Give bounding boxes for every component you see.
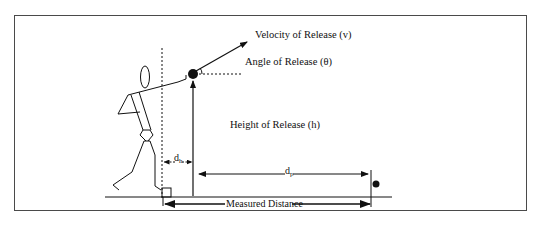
- dh-label: dh: [174, 153, 183, 165]
- angle-arc-icon: [200, 68, 202, 74]
- athlete-stick-figure-icon: [113, 66, 186, 190]
- landing-ball-icon: [373, 181, 380, 188]
- measured-distance-label: Measured Distance: [226, 199, 303, 209]
- dp-label: dp: [285, 166, 294, 178]
- stop-board-icon: [162, 188, 171, 197]
- dh-label-sub: h: [179, 157, 183, 165]
- dp-label-sub: p: [290, 170, 294, 178]
- angle-label: Angle of Release (θ): [245, 57, 332, 68]
- velocity-label: Velocity of Release (v): [255, 30, 352, 41]
- velocity-arrow: [196, 42, 247, 71]
- height-label: Height of Release (h): [230, 120, 320, 131]
